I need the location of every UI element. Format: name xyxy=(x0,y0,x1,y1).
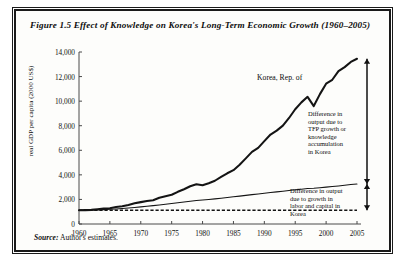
source-label: Source: xyxy=(34,233,58,242)
y-tick-label: 0 xyxy=(41,220,75,229)
source-note: Source: Author's estimates. xyxy=(34,233,118,242)
annotation-line: in Korea xyxy=(308,148,352,156)
x-tick-label: 2005 xyxy=(342,229,372,238)
x-tick-label: 1990 xyxy=(249,229,279,238)
annotation-factor-gap: Difference in outputdue to growth inlabo… xyxy=(290,187,356,217)
annotation-line: accumulation xyxy=(308,140,352,148)
source-text: Author's estimates. xyxy=(60,233,118,242)
x-tick-label: 1995 xyxy=(280,229,310,238)
figure-container: Figure 1.5 Effect of Knowledge on Korea'… xyxy=(14,9,391,252)
y-tick-label: 4,000 xyxy=(41,170,75,179)
chart-plot-area: real GDP per capita (2000 US$) 02,0004,0… xyxy=(16,11,393,254)
arrow-head xyxy=(364,184,370,189)
annotation-line: knowledge xyxy=(308,133,352,141)
annotation-line: Difference in output xyxy=(290,187,356,195)
annotation-line: labor and capital in xyxy=(290,202,356,210)
arrow-head xyxy=(364,59,370,64)
annotation-line: TFP growth or xyxy=(308,125,352,133)
annotation-line: output due to xyxy=(308,118,352,126)
y-tick-label: 12,000 xyxy=(41,72,75,81)
x-tick-label: 1985 xyxy=(218,229,248,238)
y-tick-label: 8,000 xyxy=(41,121,75,130)
y-tick-label: 2,000 xyxy=(41,195,75,204)
arrow-head xyxy=(364,179,370,184)
x-tick-label: 2000 xyxy=(311,229,341,238)
annotation-tfp-gap: Difference inoutput due toTFP growth ork… xyxy=(308,110,352,155)
x-tick-label: 1970 xyxy=(126,229,156,238)
y-tick-label: 6,000 xyxy=(41,146,75,155)
annotation-line: Difference in xyxy=(308,110,352,118)
series-label-korea: Korea, Rep. of xyxy=(257,73,302,82)
x-tick-label: 1975 xyxy=(157,229,187,238)
arrow-head xyxy=(364,205,370,210)
x-tick-label: 1980 xyxy=(188,229,218,238)
annotation-line: Korea xyxy=(290,210,356,218)
annotation-line: due to growth in xyxy=(290,195,356,203)
y-axis-title: real GDP per capita (2000 US$) xyxy=(27,49,35,173)
y-tick-label: 14,000 xyxy=(41,48,75,57)
y-tick-label: 10,000 xyxy=(41,97,75,106)
